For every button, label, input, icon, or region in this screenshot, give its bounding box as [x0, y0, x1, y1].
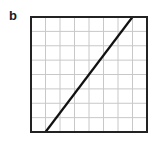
plot-canvas [30, 16, 148, 133]
panel-label: b [9, 9, 17, 22]
line-plot [30, 16, 148, 133]
